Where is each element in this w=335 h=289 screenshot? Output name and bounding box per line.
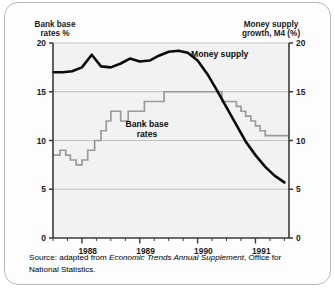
chart-figure: Bank base rates % Money supply growth, M… (5, 3, 331, 285)
svg-text:5: 5 (296, 184, 301, 194)
svg-text:5: 5 (41, 184, 46, 194)
source-prefix: Source: adapted from (29, 253, 109, 262)
right-axis-title-line2: growth, M4 (%) (242, 29, 300, 38)
source-publication-title: Economic Trends Annual Supplement (109, 253, 244, 262)
svg-text:20: 20 (37, 38, 47, 48)
left-axis-title-line2: rates % (40, 29, 70, 38)
y2-axis-tick-labels: 05101520 (296, 38, 306, 243)
source-note-line1: Source: adapted from Economic Trends Ann… (29, 252, 317, 264)
annotation-bank-base-line2: rates (137, 129, 158, 139)
figure-card: Bank base rates % Money supply growth, M… (4, 2, 331, 285)
annotation-money-supply: Money supply (191, 49, 249, 59)
svg-text:20: 20 (296, 38, 306, 48)
y-axis-tick-labels: 05101520 (37, 38, 47, 243)
right-axis-title-line1: Money supply (244, 20, 299, 29)
left-axis-title: Bank base rates % (35, 20, 76, 38)
annotation-bank-base-line1: Bank base (126, 119, 169, 129)
source-note: Source: adapted from Economic Trends Ann… (29, 252, 317, 276)
svg-text:15: 15 (296, 87, 306, 97)
svg-text:0: 0 (41, 233, 46, 243)
svg-text:0: 0 (296, 233, 301, 243)
svg-text:10: 10 (37, 136, 47, 146)
right-axis-title: Money supply growth, M4 (%) (242, 20, 300, 38)
left-axis-title-line1: Bank base (35, 20, 76, 29)
x-tick-marks (53, 238, 284, 244)
svg-text:10: 10 (296, 136, 306, 146)
svg-text:15: 15 (37, 87, 47, 97)
source-note-line2: National Statistics. (29, 264, 317, 276)
source-suffix: , Office for (244, 253, 281, 262)
